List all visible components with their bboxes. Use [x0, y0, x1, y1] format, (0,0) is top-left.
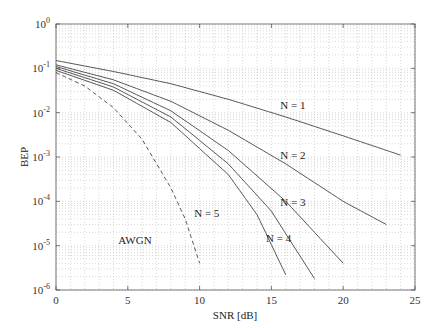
x-tick-label: 20: [338, 294, 350, 306]
x-tick-label: 0: [53, 294, 59, 306]
x-tick-label: 25: [410, 294, 422, 306]
y-axis-label: BEP: [18, 147, 30, 167]
label-n-3: N = 3: [280, 196, 306, 208]
label-n-4: N = 4: [266, 232, 292, 244]
label-n-5: N = 5: [194, 207, 220, 219]
y-tick-label: 10-5: [32, 238, 50, 252]
curve-labels: N = 1N = 2N = 3N = 4N = 5AWGN: [118, 99, 306, 246]
x-tick-label: 15: [266, 294, 278, 306]
label-n-2: N = 2: [280, 149, 305, 161]
label-awgn: AWGN: [118, 234, 151, 246]
y-tick-label: 10-3: [32, 149, 50, 163]
x-axis-label: SNR [dB]: [213, 309, 257, 321]
y-tick-label: 10-6: [32, 282, 50, 296]
y-tick-label: 10-4: [32, 193, 50, 207]
curve-n-2: [56, 65, 386, 225]
label-n-1: N = 1: [280, 99, 305, 111]
bep-vs-snr-chart: 051015202510010-110-210-310-410-510-6 N …: [0, 0, 433, 328]
y-tick-label: 10-2: [32, 105, 50, 119]
y-tick-label: 100: [35, 16, 50, 30]
x-tick-label: 10: [194, 294, 206, 306]
curve-n-1: [56, 61, 401, 156]
y-tick-label: 10-1: [32, 60, 50, 74]
x-tick-label: 5: [125, 294, 131, 306]
